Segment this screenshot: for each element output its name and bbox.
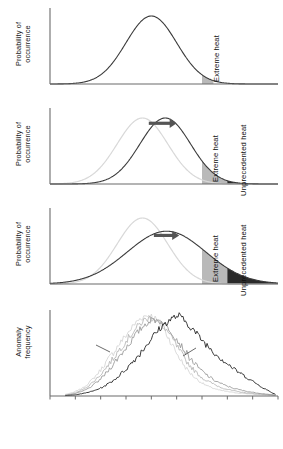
- leader-line-1951-61: [96, 345, 110, 352]
- region-label-unprecedented-heat-2: Unprecedented heat: [240, 124, 248, 196]
- plot-area-1: [0, 0, 283, 100]
- shaded-region-unprecedented-heat: [227, 268, 278, 284]
- anomaly-curve-1951-61: [65, 314, 275, 395]
- panel-baseline-distribution: Probability of occurrence Extreme heat: [0, 0, 283, 100]
- plot-area-4: [0, 300, 283, 410]
- panel-shifted-mean: Probability of occurrence Extreme heat U…: [0, 100, 283, 200]
- region-label-extreme-heat-2: Extreme heat: [212, 135, 220, 182]
- panel-observed-anomaly-histogram: Anomaly frequency -4-3-2-1012345 Anomaly…: [0, 300, 283, 449]
- anomaly-curve-2001-11: [65, 313, 275, 396]
- panel-shifted-mean-and-variance: Probability of occurrence Extreme heat U…: [0, 200, 283, 300]
- region-label-extreme-heat-3: Extreme heat: [212, 235, 220, 282]
- anomaly-curve-intermediate-decades-2: [65, 317, 275, 395]
- region-label-extreme-heat-1: Extreme heat: [213, 35, 221, 82]
- region-label-unprecedented-heat-3: Unprecedented heat: [240, 224, 248, 296]
- climate-distribution-figure: Probability of occurrence Extreme heat P…: [0, 0, 283, 449]
- anomaly-curve-intermediate-decades: [65, 316, 275, 395]
